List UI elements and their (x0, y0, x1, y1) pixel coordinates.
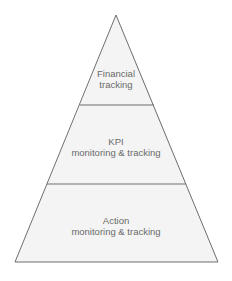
label-line2: tracking (0, 79, 232, 90)
label-action-monitoring: Action monitoring & tracking (0, 215, 232, 237)
label-line1: Financial (0, 68, 232, 79)
label-line2: monitoring & tracking (0, 147, 232, 158)
label-kpi-monitoring: KPI monitoring & tracking (0, 136, 232, 158)
label-line1: Action (0, 215, 232, 226)
pyramid-tier-top (80, 15, 154, 105)
label-financial-tracking: Financial tracking (0, 68, 232, 90)
label-line2: monitoring & tracking (0, 226, 232, 237)
label-line1: KPI (0, 136, 232, 147)
